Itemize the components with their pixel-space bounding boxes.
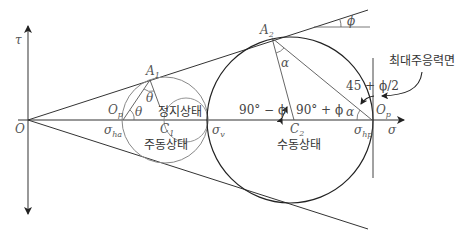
at-rest-state-label: 정지상태 xyxy=(158,106,202,118)
ninety-plus-phi-label: 90° + ϕ xyxy=(296,104,343,116)
point-c2-label: C2 xyxy=(290,123,304,138)
sigma-axis-label: σ xyxy=(388,124,396,136)
point-a1-label: A1 xyxy=(146,65,160,80)
origin-label: O xyxy=(15,123,25,135)
alpha-arc-op xyxy=(357,110,360,120)
phi-label: ϕ xyxy=(347,15,355,27)
theta-left-label: θ xyxy=(135,106,142,118)
active-state-label: 주동상태 xyxy=(144,139,188,151)
passive-state-label: 수동상태 xyxy=(277,139,321,151)
ninety-minus-phi-label: 90° − ϕ xyxy=(239,104,286,116)
angle-45-arrow xyxy=(361,96,374,104)
fortyfive-plus-half-phi-label: 45 + ϕ/2 xyxy=(346,80,399,92)
alpha-right-label: α xyxy=(346,106,354,118)
alpha-top-label: α xyxy=(281,57,289,69)
phi-angle-arc xyxy=(340,20,341,27)
sigma-ha-label: σha xyxy=(104,124,122,139)
lower-failure-envelope xyxy=(28,120,368,229)
theta-arc-op xyxy=(130,110,134,120)
sigma-v-label: σv xyxy=(212,124,225,139)
theta-top-label: θ xyxy=(146,92,153,104)
point-op-left-label: Op xyxy=(108,104,123,119)
max-principal-plane-label: 최대주응력면 xyxy=(389,55,455,67)
point-c1-label: C1 xyxy=(160,123,174,138)
point-a2-label: A2 xyxy=(260,24,274,39)
diagram-canvas xyxy=(0,0,460,242)
tau-axis-label: τ xyxy=(15,34,22,46)
point-op-right-label: Op xyxy=(376,104,391,119)
sigma-hp-label: σhp xyxy=(354,124,372,139)
mohr-circle-diagram: τ σ O A1 A2 C1 C2 Op Op σha σv σhp θ θ α… xyxy=(0,0,460,242)
alpha-arc-a2 xyxy=(276,48,284,53)
